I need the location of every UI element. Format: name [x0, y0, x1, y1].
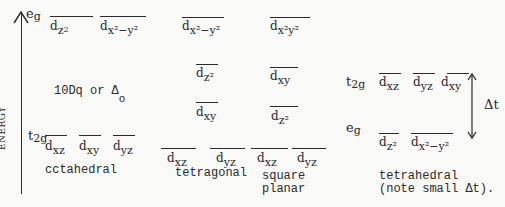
- tetragonal-dxy-level: [196, 102, 218, 103]
- tetrahedral-dz2-level: [379, 133, 399, 134]
- tetrahedral-dyz-level: [413, 73, 435, 74]
- octahedral-dyz-level: [113, 135, 135, 136]
- tetrahedral-t2g-label: t2g: [346, 74, 365, 89]
- square-planar-dz2-level: [270, 106, 298, 107]
- octahedral-dx2y2-label: dx²−y²: [100, 20, 138, 33]
- energy-axis-label: ENERGY: [0, 106, 7, 150]
- tetrahedral-dx2y2-label: dx²−y²: [411, 136, 449, 149]
- tetragonal-dxz-level: [161, 148, 196, 149]
- octahedral-dxz-level: [45, 135, 67, 136]
- square-planar-dx2y2-level: [270, 17, 310, 18]
- tetragonal-dyz-level: [210, 148, 245, 149]
- octahedral-dz2-label: dz2: [50, 20, 69, 34]
- tetragonal-dx2y2-level: [182, 17, 224, 18]
- tetragonal-title: tetragonal: [175, 167, 247, 180]
- tetragonal-dyz-label: dyz: [216, 152, 236, 165]
- square-planar-dz2-label: dz²: [271, 110, 289, 123]
- tetrahedral-dxz-level: [379, 73, 401, 74]
- octahedral-dx2y2-level: [100, 16, 146, 17]
- square-planar-dx2y2-label: dx²y²: [270, 20, 299, 33]
- tetrahedral-dz2-label: dz²: [379, 136, 397, 149]
- square-planar-dyz-label: dyz: [297, 152, 317, 165]
- square-planar-dxz-level: [251, 148, 288, 149]
- tetrahedral-dxz-label: dxz: [379, 76, 399, 89]
- octahedral-splitting-label: 10Dq or Δo: [54, 85, 125, 101]
- tetrahedral-splitting-label: Δt: [484, 97, 499, 112]
- square-planar-dxy-level: [270, 67, 298, 68]
- octahedral-dyz-label: dyz: [113, 140, 133, 153]
- tetragonal-dx2y2-label: dx²−y²: [182, 20, 220, 33]
- tetrahedral-dx2y2-level: [411, 133, 453, 134]
- octahedral-dxy-level: [79, 135, 101, 136]
- tetragonal-dxy-label: dxy: [196, 106, 216, 119]
- octahedral-eg-label: eg: [26, 6, 41, 21]
- tetragonal-dxz-label: dxz: [167, 152, 187, 165]
- square-planar-title-line2: planar: [262, 183, 305, 196]
- tetragonal-dz2-label: dz²: [196, 67, 214, 80]
- square-planar-dxy-label: dxy: [270, 70, 290, 83]
- octahedral-dz2-level: [50, 16, 93, 17]
- tetrahedral-eg-label: eg: [346, 120, 361, 135]
- square-planar-dxz-label: dxz: [257, 152, 277, 165]
- octahedral-dxy-label: dxy: [79, 140, 99, 153]
- tetragonal-dz2-level: [196, 64, 218, 65]
- tetrahedral-title-line2: (note small Δt).: [379, 183, 494, 196]
- tetrahedral-dxy-label: dxy: [441, 76, 461, 89]
- tetrahedral-dyz-label: dyz: [413, 76, 433, 89]
- energy-axis-line: [21, 12, 22, 194]
- octahedral-dxz-label: dxz: [45, 140, 65, 153]
- double-arrow-icon: [466, 72, 478, 140]
- square-planar-dyz-level: [292, 148, 326, 149]
- octahedral-title: cctahedral: [45, 164, 117, 177]
